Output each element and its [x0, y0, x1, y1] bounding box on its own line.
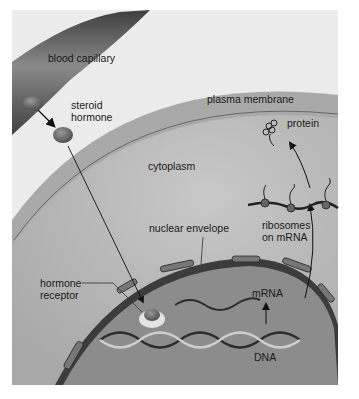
label-ribosomes-1: ribosomes	[262, 219, 310, 231]
label-cytoplasm: cytoplasm	[148, 160, 195, 172]
label-ribosomes-2: on mRNA	[262, 231, 308, 243]
label-plasma-membrane: plasma membrane	[207, 93, 294, 105]
label-nuclear-envelope: nuclear envelope	[149, 222, 229, 234]
steroid-hormone-diagram: blood capillary steroid hormone plasma m…	[0, 0, 359, 399]
label-steroid-hormone-2: hormone	[71, 111, 112, 123]
hormone-in-capillary	[23, 96, 43, 110]
label-protein: protein	[287, 117, 319, 129]
label-dna: DNA	[254, 351, 276, 363]
ribosome	[287, 204, 295, 212]
label-mrna: mRNA	[252, 287, 283, 299]
label-hormone-receptor-1: hormone	[40, 277, 81, 289]
label-blood-capillary: blood capillary	[48, 52, 115, 64]
label-steroid-hormone-1: steroid	[71, 99, 103, 111]
hormone-free	[53, 127, 73, 143]
ribosome	[322, 201, 330, 209]
label-hormone-receptor-2: receptor	[40, 289, 79, 301]
ribosome	[261, 199, 269, 207]
